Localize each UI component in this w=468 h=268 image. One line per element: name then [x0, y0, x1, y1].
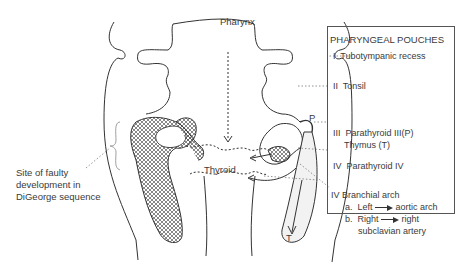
branchial-arch-item-a: a. Left aortic arch [345, 202, 438, 213]
legend-item-II: II Tonsil [333, 81, 366, 92]
branchial-arch-title: IV Branchial arch [331, 190, 400, 201]
branchial-arch-item-b: b. Right right [345, 214, 419, 225]
legend-numeral: II [333, 81, 338, 91]
thyroid-label: Thyroid [204, 164, 236, 176]
item-a-prefix: a. [345, 202, 353, 212]
legend-item-IV: IV Parathyroid IV [333, 161, 404, 172]
right-arrow-icon [375, 205, 393, 211]
right-arrow-icon [381, 217, 399, 223]
thymus-t-marker: T [286, 232, 292, 244]
legend-text: Parathyroid IV [347, 161, 404, 171]
item-a-from: Left [358, 202, 373, 212]
item-b-prefix: b. [345, 214, 353, 224]
legend-numeral: III [333, 128, 341, 138]
digeorge-label-line2: development in [16, 179, 80, 191]
legend-item-III-line2: Thymus (T) [344, 140, 390, 151]
digeorge-label-line3: DiGeorge sequence [16, 191, 101, 203]
pharyngeal-pouches-diagram: Pharynx Thyroid P T Site of faulty devel… [0, 0, 468, 268]
legend-numeral: IV [333, 161, 342, 171]
pharynx-label: Pharynx [220, 16, 255, 28]
legend-numeral: I [333, 51, 336, 61]
item-b-from: Right [358, 214, 379, 224]
item-a-to: aortic arch [396, 202, 438, 212]
item-b-to: right [402, 214, 420, 224]
legend-title: PHARYNGEAL POUCHES [330, 34, 444, 45]
legend-text: Tonsil [343, 81, 366, 91]
legend-text: Parathyroid III(P) [346, 128, 414, 138]
legend-item-I: I Tubotympanic recess [333, 51, 426, 62]
digeorge-label-line1: Site of faulty [16, 167, 68, 179]
branchial-arch-item-b-line2: subclavian artery [358, 226, 426, 237]
parathyroid-p-marker: P [309, 112, 315, 124]
legend-text: Tubotympanic recess [340, 51, 425, 61]
legend-item-III: III Parathyroid III(P) [333, 128, 414, 139]
